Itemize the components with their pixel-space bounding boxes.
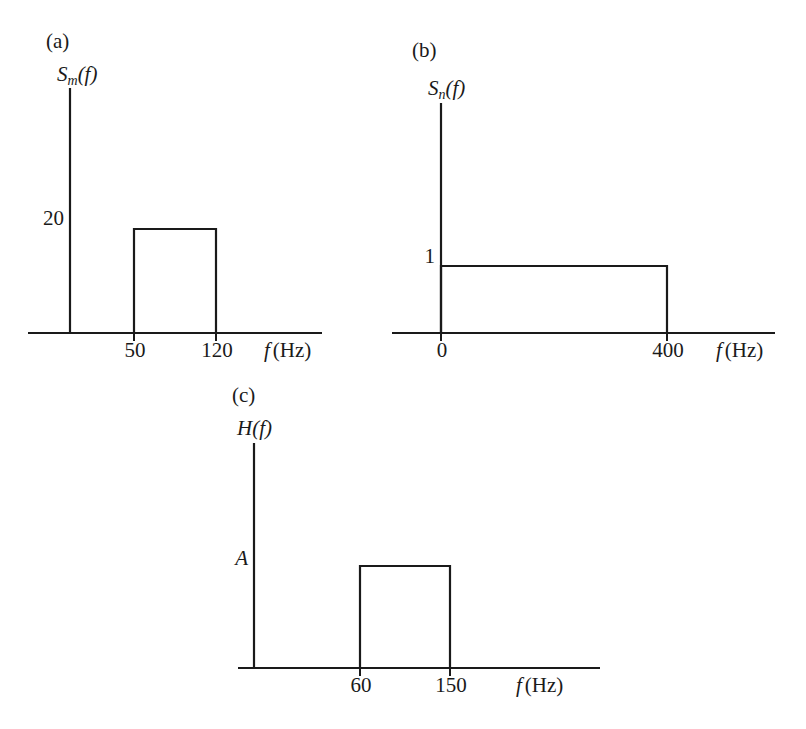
panel-b-y-axis-label-argument: (f) (446, 76, 466, 100)
panel-b-axes (392, 103, 775, 341)
panel-b-letter: (b) (412, 40, 437, 61)
panel-a-y-axis-label: Sm(f) (57, 64, 97, 88)
panel-a-spectrum-rect (134, 229, 216, 333)
panel-a-y-axis-label-main: S (57, 62, 68, 86)
panel-b-y-axis-label-subscript: n (439, 87, 446, 102)
panel-a-x-axis-unit-symbol: f (264, 338, 270, 362)
panel-a-x-axis-unit: f(Hz) (264, 340, 311, 361)
panel-b-y-axis-label: Sn(f) (428, 78, 465, 102)
panel-c-y-value-label: A (235, 548, 248, 569)
panel-a-axes (28, 88, 322, 341)
panel-c-x-axis-unit-symbol: f (516, 673, 522, 697)
panel-c-letter: (c) (232, 385, 255, 406)
panel-c-x-tick-label-1: 60 (351, 675, 372, 696)
panel-a-x-tick-label-1: 50 (125, 340, 146, 361)
panel-b-y-axis-label-main: S (428, 76, 439, 100)
panel-c-filter-rect (360, 566, 450, 668)
panel-a-x-axis-unit-hz: (Hz) (270, 338, 311, 362)
panel-c-x-axis-unit: f(Hz) (516, 675, 563, 696)
panel-b-x-axis-unit-hz: (Hz) (722, 338, 763, 362)
panel-a-x-tick-label-2: 120 (201, 340, 233, 361)
panel-a-y-value-label: 20 (43, 208, 64, 229)
panel-b-y-value-label: 1 (425, 246, 436, 267)
panel-c-y-axis-label-argument: (f) (252, 416, 272, 440)
panel-c-axes (238, 443, 600, 676)
panel-b-x-axis-unit-symbol: f (716, 338, 722, 362)
panel-a-y-axis-label-subscript: m (68, 73, 78, 88)
figure-root: (a) Sm(f) 20 50 120 f(Hz) (b) Sn(f) 1 0 … (0, 0, 806, 729)
panel-a-letter: (a) (46, 31, 69, 52)
panel-b-spectrum-rect (441, 266, 667, 333)
panel-c-y-axis-label-main: H (237, 416, 252, 440)
panel-a-y-axis-label-argument: (f) (78, 62, 98, 86)
figure-svg (0, 0, 806, 729)
panel-b-x-tick-label-1: 0 (437, 340, 448, 361)
panel-c-y-axis-label: H(f) (237, 418, 272, 442)
panel-b-x-axis-unit: f(Hz) (716, 340, 763, 361)
panel-c-x-tick-label-2: 150 (435, 675, 467, 696)
panel-b-x-tick-label-2: 400 (652, 340, 684, 361)
panel-c-x-axis-unit-hz: (Hz) (522, 673, 563, 697)
